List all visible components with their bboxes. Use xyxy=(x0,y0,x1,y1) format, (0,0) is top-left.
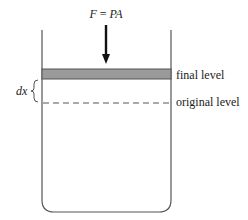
original-level-label: original level xyxy=(176,95,240,109)
brace-icon xyxy=(31,80,38,102)
piston-bar xyxy=(42,69,171,79)
force-label: F = PA xyxy=(88,7,123,21)
force-arrow-icon xyxy=(102,25,110,64)
final-level-label: final level xyxy=(176,68,225,82)
displacement-label: dx xyxy=(16,84,28,98)
piston-container-diagram: F = PA final level original level dx xyxy=(0,0,248,220)
